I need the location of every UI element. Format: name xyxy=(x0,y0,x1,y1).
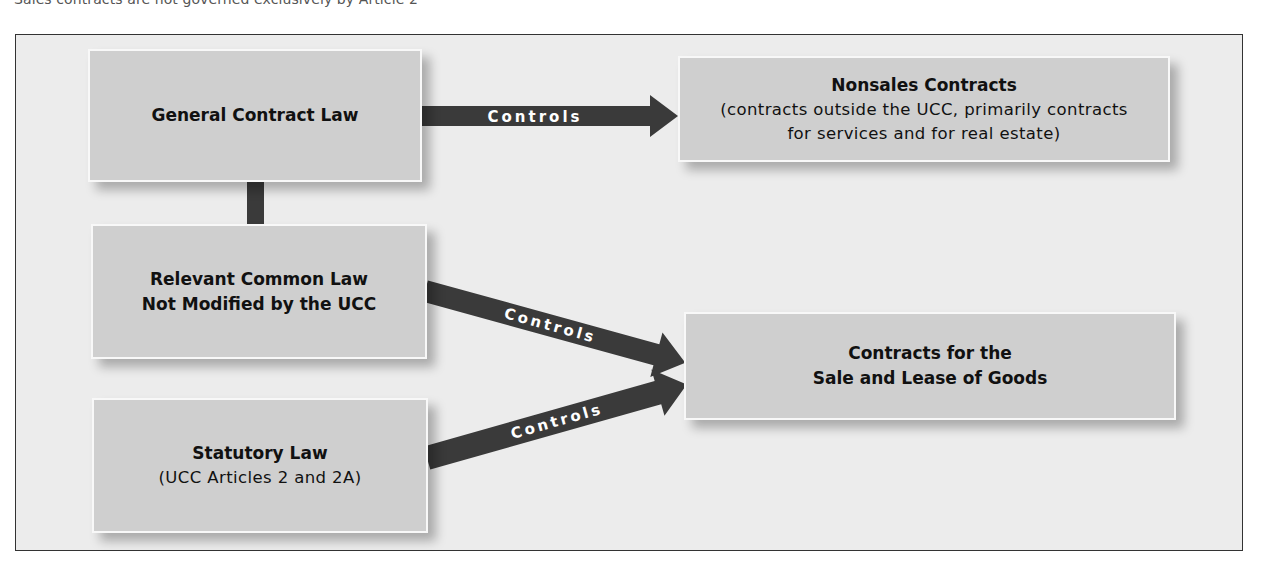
box-title-line1: Contracts for the xyxy=(848,341,1012,366)
box-nonsales-contracts: Nonsales Contracts (contracts outside th… xyxy=(678,56,1170,162)
box-subtitle-line1: (contracts outside the UCC, primarily co… xyxy=(720,98,1128,122)
box-title: Nonsales Contracts xyxy=(831,73,1017,98)
box-title-line1: Relevant Common Law xyxy=(150,267,368,292)
box-sale-and-lease-of-goods: Contracts for the Sale and Lease of Good… xyxy=(684,312,1176,420)
box-title: General Contract Law xyxy=(151,103,358,128)
diagram-page: Sales contracts are not governed exclusi… xyxy=(0,0,1263,566)
box-relevant-common-law: Relevant Common Law Not Modified by the … xyxy=(91,224,427,359)
box-subtitle-line2: for services and for real estate) xyxy=(787,122,1060,146)
figure-caption: Sales contracts are not governed exclusi… xyxy=(14,0,418,7)
box-subtitle: (UCC Articles 2 and 2A) xyxy=(158,466,361,490)
box-title-line2: Sale and Lease of Goods xyxy=(813,366,1048,391)
vertical-connector xyxy=(247,180,264,226)
box-title-line2: Not Modified by the UCC xyxy=(142,292,376,317)
box-title: Statutory Law xyxy=(192,441,327,466)
box-statutory-law: Statutory Law (UCC Articles 2 and 2A) xyxy=(92,398,428,533)
box-general-contract-law: General Contract Law xyxy=(88,49,422,182)
